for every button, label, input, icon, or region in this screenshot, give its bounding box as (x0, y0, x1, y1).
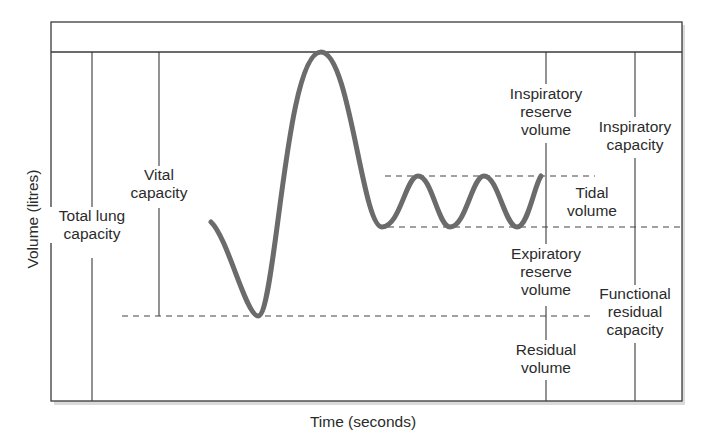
label-line: volume (501, 121, 591, 139)
label-line: Residual (506, 341, 586, 359)
label-line: capacity (592, 136, 678, 154)
x-axis-label: Time (seconds) (310, 413, 416, 431)
label-tidal-volume: Tidal volume (552, 184, 632, 220)
label-inspiratory-reserve-volume: Inspiratory reserve volume (501, 85, 591, 139)
label-line: Total lung (46, 207, 138, 225)
label-line: reserve (501, 103, 591, 121)
lung-volumes-diagram: Total lung capacity Vital capacity Inspi… (0, 0, 702, 443)
label-line: Inspiratory (592, 118, 678, 136)
label-line: Functional (592, 285, 678, 303)
y-axis-label: Volume (litres) (24, 169, 42, 268)
label-line: residual (592, 303, 678, 321)
label-line: volume (552, 202, 632, 220)
label-functional-residual-capacity: Functional residual capacity (592, 285, 678, 339)
label-inspiratory-capacity: Inspiratory capacity (592, 118, 678, 154)
label-line: capacity (46, 225, 138, 243)
label-line: reserve (501, 263, 591, 281)
label-line: capacity (119, 184, 199, 202)
label-residual-volume: Residual volume (506, 341, 586, 377)
label-line: Tidal (552, 184, 632, 202)
label-expiratory-reserve-volume: Expiratory reserve volume (501, 245, 591, 299)
label-vital-capacity: Vital capacity (119, 166, 199, 202)
label-total-lung-capacity: Total lung capacity (46, 207, 138, 243)
label-line: Expiratory (501, 245, 591, 263)
label-line: Inspiratory (501, 85, 591, 103)
label-line: capacity (592, 321, 678, 339)
label-line: volume (501, 281, 591, 299)
label-line: volume (506, 359, 586, 377)
label-line: Vital (119, 166, 199, 184)
